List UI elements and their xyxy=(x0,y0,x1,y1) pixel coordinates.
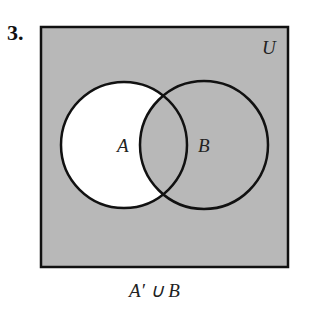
universe-label: U xyxy=(262,37,277,58)
set-a-label: A xyxy=(115,135,129,156)
set-b-label: B xyxy=(198,135,210,156)
diagram-caption: A′ ∪ B xyxy=(0,279,309,302)
venn-diagram: U A B xyxy=(0,0,309,317)
